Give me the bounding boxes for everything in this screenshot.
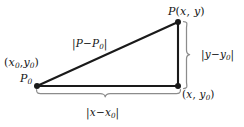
vertex-dot-p [175, 19, 181, 25]
hypotenuse-length-label: |P−P0| [72, 38, 108, 50]
corner-coordinate-label: (x, y0) [182, 89, 214, 101]
point-p-letter: P [168, 5, 176, 18]
dy-bar-close: | [231, 48, 235, 60]
hyp-p: P [76, 37, 83, 49]
horizontal-leg-length-label: |x−x0| [86, 107, 119, 119]
vertical-leg-length-label: |y−y0| [201, 49, 234, 61]
point-p-label: P(x, y) [168, 6, 205, 17]
vertical-brace-icon [184, 22, 190, 89]
horizontal-brace-icon [37, 90, 181, 97]
point-p0-subscript: 0 [28, 77, 33, 86]
dx-bar-close: | [116, 106, 120, 118]
point-p0-letter: P [20, 72, 28, 85]
point-p-paren-close: ) [200, 5, 205, 18]
corner-paren-close: ) [210, 88, 214, 100]
hyp-bar-close: | [104, 37, 108, 49]
hypotenuse-segment [37, 22, 178, 86]
distance-formula-figure: P(x, y) (x0,y0) P0 |P−P0| |y−y0| |x−x0| … [0, 0, 244, 127]
point-p0-label: P0 [20, 73, 32, 85]
point-p0-coordinate-label: (x0,y0) [4, 57, 39, 69]
corner-separator: , [192, 88, 199, 100]
dx-minus: − [96, 106, 105, 118]
p0-coord-paren-close: ) [35, 56, 40, 69]
hyp-minus: − [83, 37, 92, 49]
vertex-dot-corner [175, 83, 181, 89]
vertex-dot-p0 [34, 83, 40, 89]
dy-minus: − [211, 48, 220, 60]
point-p-separator: , [187, 5, 194, 18]
